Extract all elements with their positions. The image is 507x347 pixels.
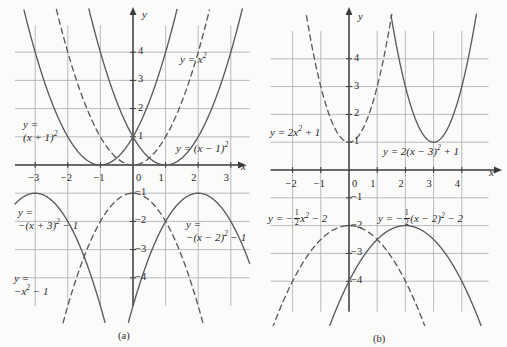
panel-a-caption: (a) [118, 330, 130, 341]
label-y-eq-neg-x-squared-minus-1: y = −x2 − 1 [14, 272, 49, 297]
y-tick-label: 1 [138, 130, 143, 141]
exponent-2: 2 [203, 51, 207, 60]
fraction-denominator: 2 [294, 219, 300, 228]
x-tick-label: 2 [398, 178, 403, 189]
label-y-eq-neg-half-x-squared-minus-2: y = −12x2 − 2 [268, 209, 327, 227]
y-tick-label: 1 [354, 135, 359, 146]
y-tick-label: −2 [351, 219, 362, 230]
x-tick-label: 2 [191, 172, 196, 183]
label-line-2: −(x − 2) [186, 231, 224, 243]
label-line-2-tail: − 1 [60, 219, 78, 231]
label-tail: + 1 [302, 126, 320, 138]
label-line-1: y = [186, 218, 201, 230]
label-tail: − 2 [445, 212, 463, 224]
x-tick-label: 3 [224, 172, 229, 183]
exponent-2: 2 [54, 129, 58, 138]
label-y-eq-neg-x-plus-3-squared-minus-1: y = −(x + 3)2 − 1 [18, 206, 78, 231]
label-y-eq-x-minus-1-squared: y = (x − 1)2 [176, 142, 228, 155]
x-tick-label: 1 [370, 178, 375, 189]
panel-a-x-axis-label: x [241, 160, 246, 172]
x-tick-label: −1 [314, 178, 325, 189]
panel-b-y-axis-label: y [358, 10, 363, 22]
x-tick-label: 1 [159, 172, 164, 183]
label-y-eq-x-squared: y = x2 [180, 53, 206, 66]
label-binomial: (x − 2) [410, 212, 441, 224]
x-tick-label: 0 [136, 172, 141, 183]
label-y-eq-x-plus-1-squared: y = (x + 1)2 [23, 118, 57, 143]
label-line-2: −x [14, 285, 26, 297]
y-tick-label: −1 [135, 186, 146, 197]
y-axis-arrowhead [130, 7, 137, 15]
exponent-2: 2 [224, 140, 228, 149]
figure-container: −3−2−101234321−1−2−3−4 x y y = (x + 1)2 … [0, 0, 507, 347]
x-axis-arrowhead [494, 167, 502, 174]
fraction-one-half: 12 [294, 209, 300, 227]
label-line-2-tail: − 1 [228, 231, 246, 243]
fraction-one-half: 12 [404, 209, 410, 227]
label-y-eq-neg-x-minus-2-squared-minus-1: y = −(x − 2)2 − 1 [186, 218, 246, 243]
label-tail: + 1 [441, 145, 459, 157]
y-tick-label: 4 [138, 45, 143, 56]
label-y-eq-2x-squared-plus-1: y = 2x2 + 1 [270, 126, 320, 139]
x-tick-label: −1 [93, 172, 104, 183]
panel-b-plot [254, 6, 507, 326]
label-line-2: (x + 1) [23, 131, 54, 143]
y-tick-label: −3 [351, 246, 362, 257]
y-tick-label: −3 [135, 243, 146, 254]
parabola-curve [128, 193, 249, 322]
label-text: y = x [180, 53, 203, 65]
x-tick-label: 0 [352, 178, 357, 189]
y-tick-label: 4 [354, 52, 359, 63]
panel-b-x-axis-label: x [489, 166, 494, 178]
panel-b-axes [271, 7, 502, 312]
panel-a-y-axis-label: y [142, 8, 147, 20]
y-axis-arrowhead [346, 7, 353, 15]
x-tick-label: −2 [286, 178, 297, 189]
x-tick-label: −3 [28, 172, 39, 183]
label-text: y = (x − 1) [176, 142, 224, 154]
label-tail: − 2 [309, 212, 327, 224]
y-tick-label: 2 [138, 102, 143, 113]
label-y-eq-neg-half-x-minus-2-squared-minus-2: y = −12(x − 2)2 − 2 [378, 209, 463, 227]
label-text: y = − [268, 212, 293, 224]
y-tick-label: −2 [135, 214, 146, 225]
label-text: y = − [378, 212, 403, 224]
label-line-2: −(x + 3) [18, 219, 56, 231]
y-tick-label: −1 [351, 191, 362, 202]
label-text: y = 2(x − 3) [383, 145, 437, 157]
label-line-2-tail: − 1 [30, 285, 48, 297]
y-tick-label: −4 [135, 271, 146, 282]
y-tick-label: −4 [351, 274, 362, 285]
x-tick-label: 3 [427, 178, 432, 189]
panel-b-caption: (b) [373, 333, 385, 344]
x-tick-label: −2 [61, 172, 72, 183]
y-tick-label: 3 [354, 80, 359, 91]
label-line-1: y = [23, 118, 38, 130]
label-line-1: y = [18, 206, 33, 218]
x-tick-label: 4 [455, 178, 460, 189]
y-tick-label: 3 [138, 73, 143, 84]
y-tick-label: 2 [354, 107, 359, 118]
label-y-eq-2-x-minus-3-squared-plus-1: y = 2(x − 3)2 + 1 [383, 145, 459, 158]
fraction-denominator: 2 [404, 219, 410, 228]
label-text: y = 2x [270, 126, 298, 138]
